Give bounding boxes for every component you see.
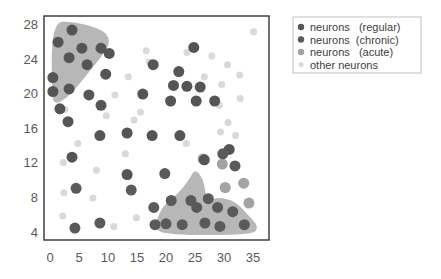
data-point: [181, 81, 192, 92]
data-point: [147, 130, 158, 141]
data-point: [82, 59, 93, 70]
data-point: [71, 183, 82, 194]
data-point: [150, 219, 161, 230]
legend: neurons (regular)neurons (chronic)neuron…: [293, 17, 421, 73]
data-point: [93, 167, 100, 174]
data-point: [230, 160, 241, 171]
legend-label: other neurons: [310, 59, 378, 71]
y-axis-ticks: 481216202428: [24, 17, 38, 240]
data-point: [250, 28, 257, 35]
legend-marker: [298, 24, 304, 30]
data-point: [103, 112, 110, 119]
data-point: [209, 96, 220, 107]
data-point: [69, 223, 80, 234]
data-point: [212, 202, 223, 213]
y-tick-label: 12: [24, 155, 38, 170]
legend-marker: [299, 62, 304, 67]
y-tick-label: 4: [31, 225, 38, 240]
data-point: [191, 96, 202, 107]
data-point: [166, 195, 177, 206]
data-point: [59, 213, 66, 220]
data-point: [89, 194, 96, 201]
data-point: [94, 130, 105, 141]
data-point: [237, 95, 244, 102]
data-point: [168, 80, 179, 91]
legend-label: neurons (acute): [310, 46, 393, 58]
data-point: [239, 219, 250, 230]
data-point: [174, 130, 185, 141]
data-point: [238, 178, 249, 189]
y-tick-label: 20: [24, 86, 38, 101]
data-point: [217, 159, 228, 170]
y-tick-label: 24: [24, 52, 38, 67]
legend-label: neurons (regular): [310, 21, 401, 33]
x-tick-label: 15: [130, 250, 144, 265]
data-point: [161, 218, 172, 229]
x-tick-label: 25: [188, 250, 202, 265]
y-tick-label: 8: [31, 190, 38, 205]
data-point: [177, 219, 188, 230]
data-point: [148, 59, 159, 70]
data-point: [199, 154, 210, 165]
data-point: [227, 206, 238, 217]
legend-label: neurons (chronic): [310, 34, 399, 46]
data-point: [64, 83, 75, 94]
data-point: [173, 66, 184, 77]
data-point: [54, 103, 65, 114]
data-point: [60, 159, 67, 166]
data-point: [220, 182, 231, 193]
data-point: [199, 218, 210, 229]
data-point: [67, 25, 78, 36]
data-point: [191, 202, 202, 213]
data-point: [131, 117, 138, 124]
data-point: [47, 72, 58, 83]
data-point: [148, 202, 159, 213]
x-tick-label: 0: [46, 250, 53, 265]
data-point: [225, 119, 232, 126]
data-point: [201, 73, 208, 80]
x-tick-label: 20: [159, 250, 173, 265]
data-point: [94, 218, 105, 229]
data-point: [64, 52, 75, 63]
data-point: [159, 168, 170, 179]
data-point: [67, 152, 78, 163]
data-point: [112, 91, 119, 98]
x-tick-label: 35: [246, 250, 260, 265]
data-point: [122, 128, 133, 139]
x-tick-label: 10: [101, 250, 115, 265]
data-point: [143, 47, 150, 54]
x-tick-label: 5: [75, 250, 82, 265]
data-point: [60, 189, 67, 196]
legend-marker: [298, 49, 304, 55]
data-point: [232, 132, 239, 139]
data-point: [208, 53, 215, 60]
x-tick-label: 30: [217, 250, 231, 265]
data-point: [195, 82, 206, 93]
data-point: [104, 48, 115, 59]
data-point: [165, 96, 176, 107]
data-point: [126, 185, 137, 196]
data-point: [203, 193, 214, 204]
legend-marker: [298, 36, 304, 42]
data-point: [96, 100, 107, 111]
cluster-region-0: [52, 22, 109, 103]
data-point: [53, 37, 64, 48]
data-point: [243, 198, 254, 209]
data-point: [63, 116, 74, 127]
data-point: [47, 86, 58, 97]
data-point: [133, 214, 140, 221]
scatter-chart: 05101520253035 481216202428 neurons (reg…: [0, 0, 441, 279]
data-point: [122, 169, 133, 180]
data-point: [125, 73, 132, 80]
data-point: [217, 148, 228, 159]
data-point: [188, 42, 199, 53]
data-point: [83, 89, 94, 100]
data-point: [218, 81, 225, 88]
y-tick-label: 28: [24, 17, 38, 32]
x-axis-ticks: 05101520253035: [46, 250, 260, 265]
y-tick-label: 16: [24, 121, 38, 136]
data-point: [224, 61, 231, 68]
data-point: [122, 150, 129, 157]
data-point: [100, 69, 111, 80]
data-point: [214, 221, 225, 232]
